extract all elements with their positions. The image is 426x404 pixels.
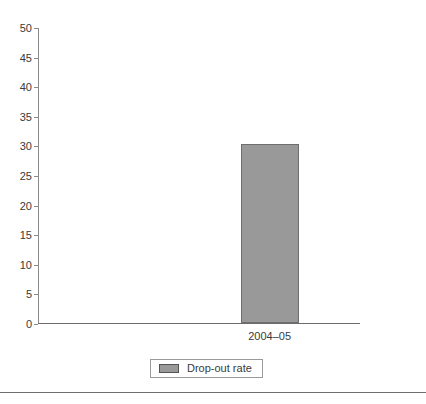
y-tick-mark bbox=[34, 206, 38, 207]
bar-2004–05 bbox=[241, 144, 299, 323]
y-tick-label: 50 bbox=[20, 23, 32, 34]
y-tick-mark bbox=[34, 235, 38, 236]
y-tick-mark bbox=[34, 117, 38, 118]
y-tick-mark bbox=[34, 294, 38, 295]
category-label: 2004–05 bbox=[248, 330, 291, 342]
y-tick-mark bbox=[34, 324, 38, 325]
y-tick-label: 10 bbox=[20, 259, 32, 270]
y-tick-mark bbox=[34, 58, 38, 59]
bottom-divider bbox=[0, 392, 426, 393]
legend-label-drop-out-rate: Drop-out rate bbox=[187, 363, 252, 374]
y-tick-mark bbox=[34, 28, 38, 29]
y-axis-line bbox=[38, 28, 39, 324]
plot-area: 05101520253035404550 2004–05 bbox=[38, 28, 360, 324]
x-axis-line bbox=[38, 323, 360, 324]
y-tick-label: 20 bbox=[20, 200, 32, 211]
y-tick-label: 30 bbox=[20, 141, 32, 152]
y-tick-label: 15 bbox=[20, 230, 32, 241]
y-tick-label: 45 bbox=[20, 52, 32, 63]
chart-figure: 05101520253035404550 2004–05 Drop-out ra… bbox=[0, 0, 426, 404]
y-tick-mark bbox=[34, 265, 38, 266]
chart-legend[interactable]: Drop-out rate bbox=[150, 359, 263, 378]
y-tick-mark bbox=[34, 87, 38, 88]
y-tick-label: 35 bbox=[20, 111, 32, 122]
y-tick-label: 25 bbox=[20, 171, 32, 182]
y-tick-label: 0 bbox=[26, 319, 32, 330]
legend-swatch-drop-out-rate bbox=[159, 364, 179, 373]
y-tick-mark bbox=[34, 146, 38, 147]
y-tick-label: 5 bbox=[26, 289, 32, 300]
y-tick-label: 40 bbox=[20, 82, 32, 93]
y-tick-mark bbox=[34, 176, 38, 177]
